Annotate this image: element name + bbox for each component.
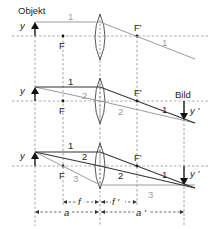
image-arrow-head bbox=[180, 113, 188, 120]
front-focus-label: F bbox=[59, 40, 65, 51]
front-focus-point bbox=[62, 35, 65, 38]
object-arrow-head bbox=[31, 22, 39, 29]
ray-3-label: 3 bbox=[148, 189, 153, 200]
ray-1-label: 1 bbox=[162, 104, 167, 115]
panel-2: y F F' Bild y ' 1 2 1 2 bbox=[12, 76, 208, 124]
ray-2-label: 2 bbox=[118, 106, 123, 117]
front-focus-label: F bbox=[59, 170, 65, 181]
ray-1-label: 1 bbox=[68, 76, 73, 87]
panel-3: y F F' y ' 1 2 3 1 2 3 bbox=[12, 140, 208, 200]
dimension-a-prime: a ' bbox=[101, 206, 184, 218]
back-focus-label: F' bbox=[134, 87, 142, 98]
object-height-label: y bbox=[19, 20, 26, 31]
dimension-f-prime: f ' bbox=[101, 196, 137, 207]
image-arrow-head bbox=[180, 178, 188, 185]
front-focus-point bbox=[62, 100, 65, 103]
object-height-label: y bbox=[19, 150, 26, 161]
lens-ray-diagram: Objekt y F F' 1 1 y F F' Bild y bbox=[0, 0, 211, 229]
back-focus-label: F' bbox=[134, 152, 142, 163]
dimension-f: f bbox=[63, 196, 99, 207]
a-prime-label: a ' bbox=[136, 207, 147, 218]
back-focus-label: F' bbox=[134, 22, 142, 33]
image-height-label: y ' bbox=[189, 105, 200, 116]
lens bbox=[95, 14, 105, 60]
object-height-label: y bbox=[19, 85, 26, 96]
ray-2-label: 2 bbox=[82, 90, 87, 101]
object-label: Objekt bbox=[18, 5, 46, 16]
ray-1-label: 1 bbox=[162, 37, 167, 48]
f-prime-label: f ' bbox=[112, 196, 120, 207]
ray-1-label: 1 bbox=[68, 140, 73, 151]
image-label: Bild bbox=[175, 89, 191, 100]
panel-1: Objekt y F F' 1 1 bbox=[12, 5, 208, 60]
ray-1-label: 1 bbox=[162, 169, 167, 180]
ray-2-label: 2 bbox=[118, 170, 123, 181]
ray-3-label: 3 bbox=[73, 173, 78, 184]
ray-2-label: 2 bbox=[82, 151, 87, 162]
a-label: a bbox=[64, 207, 69, 218]
ray-1-label: 1 bbox=[68, 11, 73, 22]
image-height-label: y ' bbox=[189, 168, 200, 179]
dimension-a: a bbox=[35, 206, 99, 218]
front-focus-label: F bbox=[59, 105, 65, 116]
